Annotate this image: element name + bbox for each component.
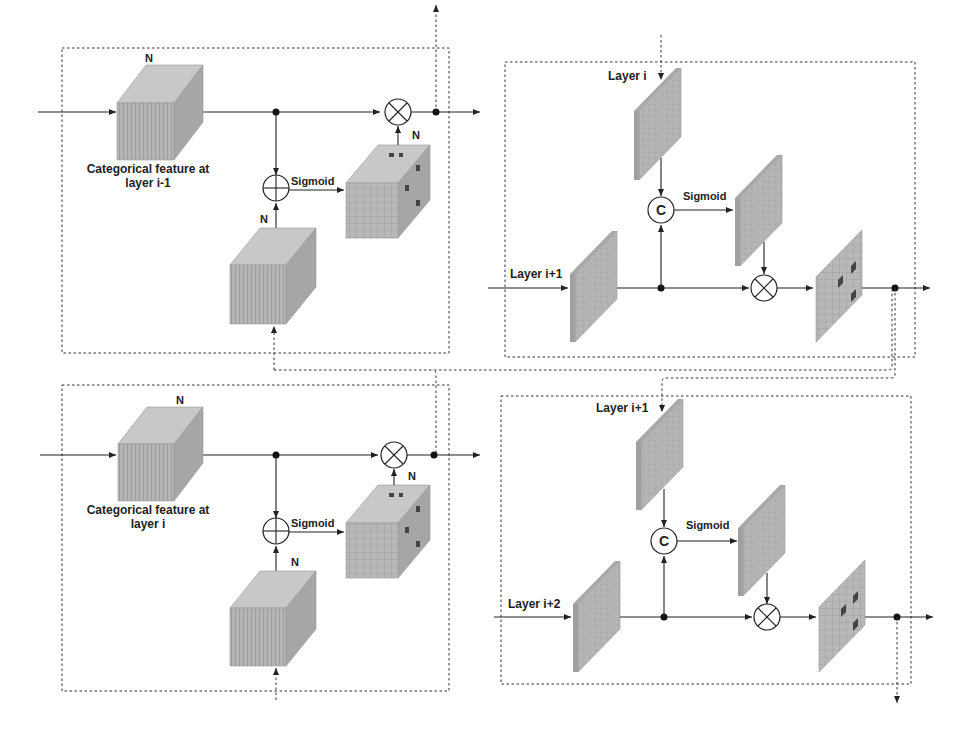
input-label-line2: layer i-1 [125, 176, 171, 190]
attention-map-cube [346, 145, 430, 238]
right-top-module: Layer i C Sigmoid Layer i+1 [488, 35, 930, 357]
channel-label: N [408, 470, 416, 482]
channel-label: N [145, 52, 153, 64]
branch-feature-cube [230, 571, 316, 666]
sigmoid-label: Sigmoid [291, 517, 334, 529]
sigmoid-label: Sigmoid [291, 175, 334, 187]
add-operator [263, 175, 289, 201]
multiply-operator [751, 275, 777, 301]
main-feature-plane [573, 561, 620, 672]
top-feature-plane [636, 399, 683, 510]
multiply-operator [381, 442, 407, 468]
main-input-label: Layer i+2 [508, 597, 561, 611]
input-label-line2: layer i [131, 517, 166, 531]
left-bottom-module: N Categorical feature at layer i Sigmoid… [40, 370, 480, 700]
channel-label: N [176, 394, 184, 406]
sigmoid-plane [738, 485, 785, 596]
top-feature-plane [634, 68, 681, 180]
skip-connector [432, 370, 436, 453]
channel-label: N [412, 129, 420, 141]
add-operator [263, 518, 289, 544]
input-label: Categorical feature at [87, 162, 210, 176]
top-input-label: Layer i [608, 69, 647, 83]
input-feature-cube [118, 407, 203, 501]
channel-label: N [260, 213, 268, 225]
cascade-connector [662, 288, 895, 412]
input-label: Categorical feature at [87, 503, 210, 517]
multiply-operator [754, 604, 780, 630]
sigmoid-label: Sigmoid [683, 190, 726, 202]
output-attention-plane [816, 230, 862, 342]
concat-operator: C [648, 197, 674, 223]
main-input-label: Layer i+1 [510, 267, 563, 281]
input-feature-cube [117, 65, 203, 160]
concat-operator: C [651, 528, 677, 554]
output-node [431, 452, 438, 459]
main-feature-plane [570, 231, 617, 342]
multiply-operator [385, 99, 411, 125]
branch-feature-cube [230, 228, 316, 324]
top-input-label: Layer i+1 [596, 401, 649, 415]
right-bottom-module: Layer i+1 C Sigmoid Layer i+2 [494, 396, 933, 703]
sigmoid-label: Sigmoid [686, 519, 729, 531]
attention-map-cube [346, 485, 430, 578]
channel-label: N [291, 556, 299, 568]
attention-fusion-diagram: N Categorical feature at layer i-1 Sigmo… [0, 0, 962, 736]
left-top-module: N Categorical feature at layer i-1 Sigmo… [38, 5, 480, 370]
concat-symbol: C [659, 533, 669, 549]
output-attention-plane [819, 560, 865, 672]
sigmoid-plane [735, 155, 782, 266]
concat-symbol: C [656, 202, 666, 218]
